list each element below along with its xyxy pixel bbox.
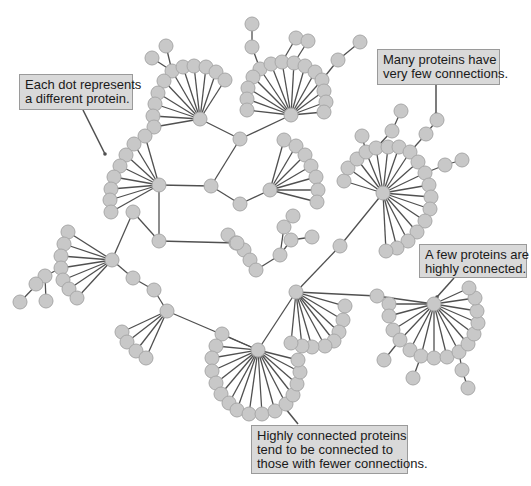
- protein-node: [353, 35, 367, 49]
- protein-node: [455, 153, 469, 167]
- callout-line: Highly connected proteins: [257, 429, 402, 443]
- callout-highly-connected: Highly connected proteins tend to be con…: [251, 425, 408, 474]
- edge: [145, 136, 159, 185]
- pointer-tip: [103, 152, 107, 156]
- protein-node: [284, 336, 298, 350]
- protein-node: [126, 205, 140, 219]
- protein-node: [218, 73, 232, 87]
- protein-node: [338, 299, 352, 313]
- protein-node: [301, 34, 315, 48]
- protein-node: [205, 351, 219, 365]
- protein-node: [152, 234, 166, 248]
- edge: [296, 246, 340, 292]
- protein-node: [255, 407, 269, 421]
- protein-node: [289, 285, 303, 299]
- protein-node: [13, 295, 27, 309]
- protein-node: [355, 129, 369, 143]
- callout-line: tend to be connected to: [257, 443, 402, 457]
- edge: [258, 350, 262, 414]
- protein-node: [249, 263, 263, 277]
- callout-line: very few connections.: [383, 67, 494, 81]
- protein-node: [284, 108, 298, 122]
- protein-node: [427, 297, 441, 311]
- protein-node: [242, 407, 256, 421]
- edge: [77, 260, 112, 298]
- protein-node: [263, 183, 277, 197]
- edge: [437, 278, 454, 297]
- protein-node: [337, 174, 351, 188]
- protein-node: [309, 170, 323, 184]
- callout-line: Many proteins have: [383, 53, 494, 67]
- callout-many-proteins: Many proteins have very few connections.: [377, 49, 500, 85]
- callout-each-dot: Each dot represents a different protein.: [19, 74, 133, 110]
- protein-node: [147, 283, 161, 297]
- protein-node: [461, 381, 475, 395]
- edge: [68, 232, 112, 260]
- protein-node: [385, 124, 399, 138]
- protein-node: [245, 40, 259, 54]
- callout-line: A few proteins are: [425, 248, 521, 262]
- protein-node: [310, 195, 324, 209]
- protein-node: [29, 277, 43, 291]
- callout-line: highly connected.: [425, 262, 521, 276]
- protein-node: [462, 281, 476, 295]
- protein-node: [470, 304, 484, 318]
- protein-node: [379, 244, 393, 258]
- protein-node: [70, 291, 84, 305]
- protein-node: [160, 304, 174, 318]
- protein-node: [394, 104, 408, 118]
- callout-line: Each dot represents: [25, 78, 127, 92]
- protein-node: [419, 127, 433, 141]
- edge: [83, 110, 105, 154]
- protein-node: [104, 205, 118, 219]
- protein-node: [240, 103, 254, 117]
- protein-node: [455, 363, 469, 377]
- protein-node: [152, 178, 166, 192]
- protein-node: [233, 132, 247, 146]
- protein-node: [305, 230, 319, 244]
- protein-node: [39, 294, 53, 308]
- protein-node: [159, 39, 173, 53]
- protein-node: [105, 253, 119, 267]
- protein-node: [438, 158, 452, 172]
- protein-node: [139, 351, 153, 365]
- protein-node: [414, 349, 428, 363]
- protein-node: [406, 371, 420, 385]
- protein-node: [126, 271, 140, 285]
- edge: [159, 185, 211, 186]
- protein-node: [204, 179, 218, 193]
- edge: [61, 260, 112, 268]
- protein-node: [430, 113, 444, 127]
- callout-line: a different protein.: [25, 92, 127, 106]
- edge: [112, 212, 133, 260]
- protein-node: [273, 248, 287, 262]
- protein-node: [382, 309, 396, 323]
- edge: [258, 350, 293, 395]
- protein-node: [376, 186, 390, 200]
- edge: [340, 193, 383, 246]
- edge: [296, 292, 334, 341]
- protein-node: [284, 233, 298, 247]
- protein-node: [251, 343, 265, 357]
- protein-node: [331, 53, 345, 67]
- edge: [258, 350, 286, 404]
- protein-node: [291, 353, 305, 367]
- protein-node: [318, 339, 332, 353]
- protein-node: [230, 236, 244, 250]
- protein-node: [145, 51, 159, 65]
- protein-node: [377, 353, 391, 367]
- callout-few-proteins: A few proteins are highly connected.: [419, 244, 527, 278]
- protein-node: [193, 112, 207, 126]
- protein-node: [286, 209, 300, 223]
- protein-node: [427, 351, 441, 365]
- protein-node: [333, 239, 347, 253]
- protein-node: [245, 17, 259, 31]
- edge: [211, 139, 240, 186]
- protein-node: [370, 289, 384, 303]
- protein-node: [317, 105, 331, 119]
- protein-node: [233, 197, 247, 211]
- callout-line: those with fewer connections.: [257, 457, 402, 471]
